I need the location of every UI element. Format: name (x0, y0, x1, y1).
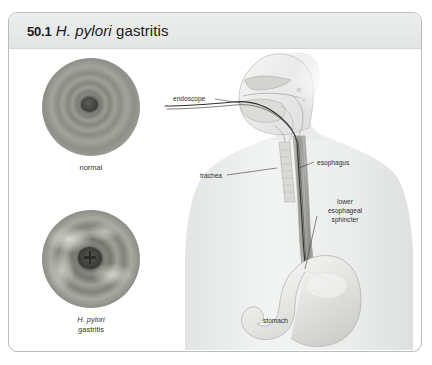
figure-number: 50.1 (27, 24, 52, 39)
endoscopy-photo-column: normal H. pylori gastritis (31, 56, 151, 346)
normal-photo-caption: normal (31, 163, 151, 173)
normal-endoscopy-image (42, 58, 140, 156)
gastritis-caption-line1: H. pylori (31, 315, 151, 325)
label-endoscope: endoscope (173, 95, 205, 104)
label-esophagus: esophagus (317, 159, 349, 168)
label-lower-esophageal-sphincter: lower esophageal sphincter (319, 198, 371, 225)
figure-card: 50.1 H. pylori gastritis normal H. pylor… (8, 12, 422, 352)
anatomy-illustration: endoscope trachea esophagus lower esopha… (159, 50, 421, 350)
photo-block-normal: normal (31, 58, 151, 173)
gastritis-endoscopy-image (42, 210, 140, 308)
figure-header: 50.1 H. pylori gastritis (9, 13, 421, 49)
les-label-line2: esophageal (319, 207, 371, 216)
figure-title-rest: gastritis (116, 22, 169, 39)
les-label-line3: sphincter (319, 216, 371, 225)
photo-block-gastritis: H. pylori gastritis (31, 210, 151, 335)
les-label-line1: lower (319, 198, 371, 207)
gastritis-photo-caption: H. pylori gastritis (31, 315, 151, 335)
gastritis-caption-line2: gastritis (31, 325, 151, 335)
label-stomach: stomach (263, 317, 288, 326)
figure-title-italic: H. pylori (56, 22, 112, 39)
label-trachea: trachea (200, 172, 222, 181)
pylorus-opening-icon (84, 251, 96, 264)
normal-caption-line1: normal (80, 163, 103, 172)
figure-body: normal H. pylori gastritis (9, 50, 421, 351)
page-title: 50.1 H. pylori gastritis (27, 22, 169, 39)
